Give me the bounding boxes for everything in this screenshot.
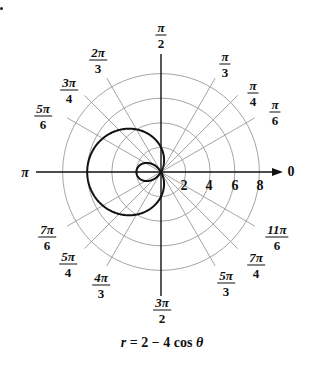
- radial-tick-6: 6: [232, 178, 239, 194]
- angle-label-pi-over-3: π3: [219, 50, 230, 79]
- angle-label-4pi-over-3: 4π3: [92, 271, 110, 300]
- angle-label-pi-over-4: π4: [247, 79, 258, 108]
- angle-label-2pi-over-3: 2π3: [89, 46, 107, 75]
- angle-label-5pi-over-4: 5π4: [59, 250, 77, 279]
- equation-caption: r = 2 − 4 cos θ: [121, 335, 203, 351]
- radial-tick-4: 4: [206, 178, 213, 194]
- angle-label-3pi-over-4: 3π4: [60, 76, 78, 105]
- angle-label-5pi-over-6: 5π6: [34, 102, 52, 131]
- radial-tick-2: 2: [181, 178, 188, 194]
- radial-tick-8: 8: [257, 178, 264, 194]
- angle-label-pi-over-2: π2: [155, 21, 166, 50]
- angle-label-zero: 0: [288, 165, 295, 179]
- angle-label-5pi-over-3: 5π3: [217, 269, 235, 298]
- angle-label-7pi-over-6: 7π6: [38, 223, 56, 252]
- angle-label-7pi-over-4: 7π4: [247, 251, 265, 280]
- angle-label-pi: π: [21, 166, 29, 180]
- angle-label-3pi-over-2: 3π2: [153, 296, 171, 325]
- angle-label-pi-over-6: π6: [269, 98, 280, 127]
- angle-label-11pi-over-6: 11π6: [265, 223, 288, 252]
